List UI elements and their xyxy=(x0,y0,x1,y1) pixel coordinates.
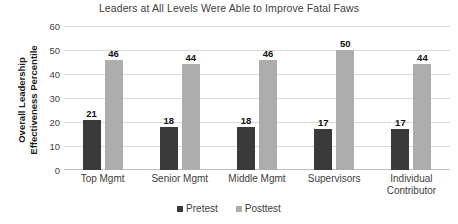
bar-chart: Leaders at All Levels Were Able to Impro… xyxy=(0,0,458,224)
x-tick-label: Top Mgmt xyxy=(64,173,141,185)
y-tick-label: 40 xyxy=(38,69,60,80)
x-tick-label-line: Supervisors xyxy=(308,173,361,184)
bar-pretest[interactable] xyxy=(314,129,332,170)
legend-swatch-icon xyxy=(177,206,183,212)
bar-value-label: 18 xyxy=(154,115,184,126)
y-axis-title: Overall Leadership Effectiveness Percent… xyxy=(16,20,40,180)
bar-pretest[interactable] xyxy=(391,129,409,170)
bar-posttest[interactable] xyxy=(336,50,354,170)
x-tick-label-line: Senior Mgmt xyxy=(151,173,208,184)
chart-legend: PretestPosttest xyxy=(0,203,458,214)
x-tick-label: IndividualContributor xyxy=(373,173,450,197)
chart-title: Leaders at All Levels Were Able to Impro… xyxy=(0,2,458,14)
x-tick-label-line: Middle Mgmt xyxy=(228,173,285,184)
legend-swatch-icon xyxy=(236,206,242,212)
bar-value-label: 17 xyxy=(308,117,338,128)
bar-value-label: 46 xyxy=(99,48,129,59)
legend-label: Pretest xyxy=(186,203,218,214)
x-tick-label: Supervisors xyxy=(296,173,373,185)
bar-posttest[interactable] xyxy=(182,64,200,170)
x-axis-tick-labels: Top MgmtSenior MgmtMiddle MgmtSupervisor… xyxy=(64,173,450,203)
x-tick-label: Senior Mgmt xyxy=(141,173,218,185)
bar-pretest[interactable] xyxy=(83,120,101,170)
legend-item-posttest[interactable]: Posttest xyxy=(236,203,281,214)
bar-value-label: 17 xyxy=(385,117,415,128)
x-tick-label-line: Top Mgmt xyxy=(81,173,125,184)
y-tick-label: 50 xyxy=(38,45,60,56)
y-tick-label: 20 xyxy=(38,117,60,128)
plot-area: 21461844184617501744 xyxy=(64,26,450,170)
x-tick-label: Middle Mgmt xyxy=(218,173,295,185)
bar-value-label: 21 xyxy=(77,108,107,119)
bar-value-label: 50 xyxy=(330,38,360,49)
y-axis-tick-labels: 0102030405060 xyxy=(38,26,60,170)
y-axis-title-line1: Overall Leadership xyxy=(16,57,27,143)
bar-posttest[interactable] xyxy=(259,60,277,170)
bar-value-label: 18 xyxy=(231,115,261,126)
y-tick-label: 10 xyxy=(38,141,60,152)
bar-pretest[interactable] xyxy=(237,127,255,170)
y-tick-label: 30 xyxy=(38,93,60,104)
bar-posttest[interactable] xyxy=(413,64,431,170)
bar-value-label: 44 xyxy=(176,52,206,63)
bar-pretest[interactable] xyxy=(160,127,178,170)
bar-group: 1750 xyxy=(314,26,354,170)
bar-posttest[interactable] xyxy=(105,60,123,170)
y-tick-label: 60 xyxy=(38,21,60,32)
bar-group: 2146 xyxy=(83,26,123,170)
x-tick-label-line: Contributor xyxy=(373,185,450,197)
y-tick-label: 0 xyxy=(38,165,60,176)
x-tick-label-line: Individual xyxy=(390,173,432,184)
bar-value-label: 44 xyxy=(407,52,437,63)
bar-value-label: 46 xyxy=(253,48,283,59)
bar-group: 1846 xyxy=(237,26,277,170)
legend-item-pretest[interactable]: Pretest xyxy=(177,203,218,214)
bar-group: 1744 xyxy=(391,26,431,170)
bar-group: 1844 xyxy=(160,26,200,170)
legend-label: Posttest xyxy=(245,203,281,214)
